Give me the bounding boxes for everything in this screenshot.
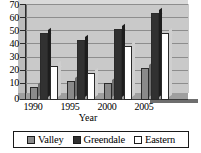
bar-greendale-2000[interactable] <box>114 29 122 100</box>
bar-greendale-1990[interactable] <box>40 33 48 100</box>
legend-swatch-icon-eastern <box>134 136 142 144</box>
bar-greendale-1995[interactable] <box>77 40 85 100</box>
bar-front <box>141 68 149 100</box>
bar-front <box>161 33 169 100</box>
y-axis-label-60: 60 <box>1 13 19 23</box>
y-tick-70 <box>20 4 25 5</box>
y-axis-labels: 70 60 50 40 30 20 10 0 <box>0 0 19 110</box>
y-tick-60 <box>20 17 25 18</box>
y-tick-10 <box>20 83 25 84</box>
bar-eastern-2005[interactable] <box>161 33 169 100</box>
y-axis-label-70: 70 <box>1 0 19 10</box>
bar-front <box>50 66 58 100</box>
bar-series-container <box>26 4 188 100</box>
bar-eastern-1995[interactable] <box>87 73 95 100</box>
x-axis-title: Year <box>0 112 176 124</box>
bar-front <box>77 40 85 100</box>
bar-front <box>124 46 132 100</box>
bar-greendale-2005[interactable] <box>151 13 159 100</box>
legend-swatch-icon-greendale <box>73 136 81 144</box>
y-axis-label-20: 20 <box>1 65 19 75</box>
bar-front <box>67 81 75 100</box>
bar-group-2005 <box>141 4 177 100</box>
bar-front <box>104 83 112 100</box>
bar-front <box>87 73 95 100</box>
legend-item-eastern[interactable]: Eastern <box>134 134 175 145</box>
bar-valley-2000[interactable] <box>104 83 112 100</box>
bar-group-2000 <box>104 4 140 100</box>
chart-legend: Valley Greendale Eastern <box>13 131 189 148</box>
y-axis-label-30: 30 <box>1 52 19 62</box>
y-axis-label-10: 10 <box>1 78 19 88</box>
bar-side <box>58 61 61 97</box>
legend-label-greendale: Greendale <box>84 134 125 145</box>
bar-front <box>30 87 38 100</box>
bar-valley-2005[interactable] <box>141 68 149 100</box>
bar-front <box>151 13 159 100</box>
bar-group-1995 <box>67 4 103 100</box>
y-axis-label-50: 50 <box>1 26 19 36</box>
bar-eastern-1990[interactable] <box>50 66 58 100</box>
legend-item-greendale[interactable]: Greendale <box>73 134 125 145</box>
bar-group-1990 <box>30 4 66 100</box>
y-tick-40 <box>20 43 25 44</box>
y-tick-30 <box>20 57 25 58</box>
legend-swatch-icon-valley <box>27 136 35 144</box>
y-tick-50 <box>20 30 25 31</box>
legend-label-valley: Valley <box>38 134 64 145</box>
bar-side <box>95 68 98 97</box>
legend-label-eastern: Eastern <box>145 134 175 145</box>
bar-front <box>40 33 48 100</box>
bar-eastern-2000[interactable] <box>124 46 132 100</box>
plot-area: 70 60 50 40 30 20 10 0 <box>0 0 201 112</box>
bar-front <box>114 29 122 100</box>
bar-side <box>169 28 172 97</box>
bar-valley-1990[interactable] <box>30 87 38 100</box>
y-tick-0 <box>20 99 25 100</box>
legend-item-valley[interactable]: Valley <box>27 134 64 145</box>
y-axis-label-40: 40 <box>1 39 19 49</box>
bar-side <box>132 41 135 97</box>
bar-valley-1995[interactable] <box>67 81 75 100</box>
y-tick-20 <box>20 70 25 71</box>
bar-chart: 70 60 50 40 30 20 10 0 <box>0 0 201 153</box>
